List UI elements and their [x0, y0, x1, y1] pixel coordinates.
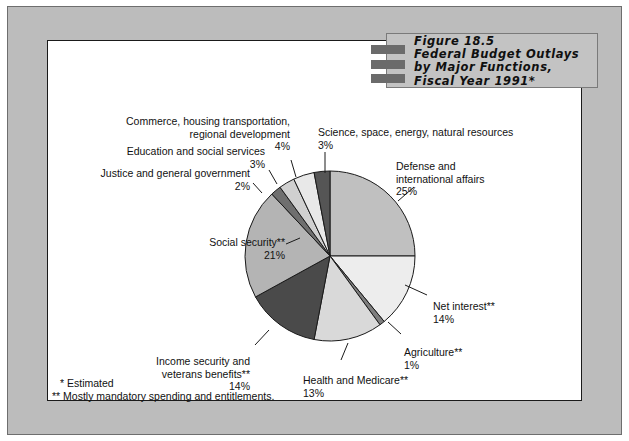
- slice-label-commerce-pct: 4%: [90, 140, 290, 152]
- leader-education: [269, 170, 277, 184]
- slice-label-health: Health and Medicare** 13%: [303, 362, 463, 412]
- slice-label-science-pct: 3%: [318, 139, 568, 151]
- leader-agriculture: [388, 322, 401, 334]
- slice-label-commerce-name: Commerce, housing transportation, region…: [126, 115, 290, 139]
- leader-health: [341, 343, 348, 360]
- leader-justice: [253, 183, 262, 193]
- slice-label-defense-name: Defense and international affairs: [396, 160, 485, 184]
- slice-label-defense-pct: 25%: [396, 185, 516, 197]
- slice-label-science-name: Science, space, energy, natural resource…: [318, 126, 513, 138]
- slice-label-health-pct: 13%: [303, 387, 463, 399]
- slice-label-net-interest: Net interest** 14%: [433, 288, 543, 338]
- figure-canvas: Figure 18.5 Federal Budget Outlays by Ma…: [0, 0, 629, 441]
- slice-label-social-name: Social security**: [209, 236, 285, 248]
- leader-income: [255, 330, 269, 345]
- footnote-mandatory: ** Mostly mandatory spending and entitle…: [52, 390, 274, 403]
- slice-label-social: Social security** 21%: [120, 224, 285, 274]
- slice-label-net-interest-name: Net interest**: [433, 300, 495, 312]
- slice-label-income-name: Income security and veterans benefits**: [156, 355, 250, 379]
- leader-commerce: [291, 160, 296, 177]
- slice-label-health-name: Health and Medicare**: [303, 374, 408, 386]
- slice-label-commerce: Commerce, housing transportation, region…: [90, 103, 290, 165]
- slice-label-social-pct: 21%: [120, 249, 285, 261]
- slice-label-agriculture-name: Agriculture**: [404, 346, 462, 358]
- footnote-estimated: * Estimated: [60, 377, 114, 390]
- slice-label-science: Science, space, energy, natural resource…: [318, 114, 568, 164]
- slice-label-net-interest-pct: 14%: [433, 313, 543, 325]
